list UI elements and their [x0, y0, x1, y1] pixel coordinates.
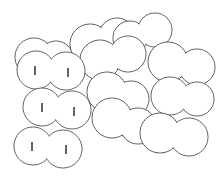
lobe-fill	[171, 119, 208, 156]
peanut-shape-right-upper	[148, 42, 215, 85]
lobe-fill	[139, 14, 172, 47]
lobe-fill	[111, 37, 146, 72]
lobe-fill	[180, 50, 215, 85]
lobe-fill	[48, 53, 85, 90]
peanut-illustration	[0, 0, 222, 176]
lobe-fill	[181, 83, 214, 116]
peanut-shape-face-2	[23, 88, 91, 129]
lobe-fill	[54, 92, 91, 129]
peanut-shape-right-lower	[140, 113, 208, 156]
lobe-fill	[45, 131, 82, 168]
peanut-shape-face-3	[14, 127, 82, 168]
